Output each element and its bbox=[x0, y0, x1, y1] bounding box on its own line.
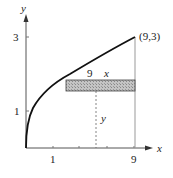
y-tick-label-1: 1 bbox=[14, 105, 20, 117]
strip-left-label: x bbox=[103, 67, 109, 79]
x-tick-label-1: 1 bbox=[50, 153, 56, 165]
strip-height-label: y bbox=[100, 112, 106, 124]
y-axis-label: y bbox=[20, 2, 26, 14]
diagram-canvas: y x 3 1 1 9 (9,3) 9 x y bbox=[0, 0, 173, 178]
y-tick-label-3: 3 bbox=[13, 31, 19, 43]
strip-right-label: 9 bbox=[87, 67, 93, 79]
x-tick-label-9: 9 bbox=[131, 153, 137, 165]
y-axis-arrow-icon bbox=[24, 14, 29, 22]
curve-x-equals-y-squared bbox=[26, 37, 135, 148]
horizontal-strip bbox=[66, 80, 135, 91]
endpoint-label: (9,3) bbox=[139, 30, 160, 43]
diagram-svg: y x 3 1 1 9 (9,3) 9 x y bbox=[0, 0, 173, 178]
x-axis-arrow-icon bbox=[145, 146, 153, 151]
x-axis-label: x bbox=[156, 142, 162, 154]
